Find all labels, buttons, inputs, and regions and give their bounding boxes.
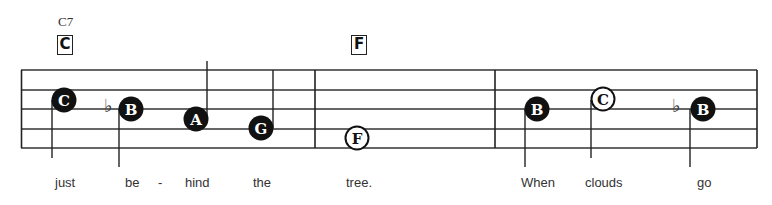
- note-c-open: C: [592, 88, 615, 111]
- note-g: G: [249, 116, 274, 141]
- note-c: C: [52, 88, 77, 113]
- lyric: the: [253, 175, 271, 190]
- lyric: tree.: [346, 175, 372, 190]
- music-staff: ♭ ♭ C B A G F B C B: [0, 0, 772, 205]
- svg-text:B: B: [531, 101, 544, 119]
- note-b-flat: B: [119, 97, 144, 122]
- lyric: When: [521, 175, 555, 190]
- note-a: A: [184, 107, 209, 132]
- flat-icon: ♭: [672, 95, 681, 116]
- svg-text:C: C: [597, 91, 609, 109]
- flat-icon: ♭: [104, 95, 113, 116]
- lyric: be: [125, 175, 139, 190]
- svg-text:C: C: [58, 92, 70, 110]
- note-b-flat-2: B: [691, 97, 716, 122]
- stems: [52, 61, 690, 167]
- lyric: just: [55, 175, 75, 190]
- svg-text:G: G: [255, 120, 268, 138]
- lyric: go: [697, 175, 711, 190]
- svg-text:B: B: [125, 101, 138, 119]
- svg-text:B: B: [697, 101, 710, 119]
- note-f: F: [346, 127, 369, 150]
- note-b: B: [525, 97, 550, 122]
- lyric-hyphen: -: [158, 175, 162, 190]
- lyric: clouds: [585, 175, 623, 190]
- lyric: hind: [185, 175, 210, 190]
- svg-text:F: F: [352, 130, 363, 148]
- svg-text:A: A: [189, 111, 202, 129]
